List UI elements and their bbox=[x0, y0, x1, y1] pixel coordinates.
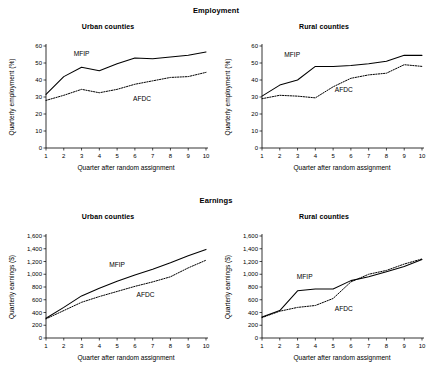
x-tick-label: 10 bbox=[419, 153, 426, 159]
x-tick-label: 4 bbox=[98, 153, 102, 159]
x-tick-label: 1 bbox=[260, 153, 264, 159]
y-tick-label: 1,400 bbox=[27, 246, 43, 252]
y-tick-label: 0 bbox=[39, 335, 43, 341]
x-tick-label: 6 bbox=[133, 153, 137, 159]
y-tick-label: 200 bbox=[248, 322, 259, 328]
series-label-mfip: MFIP bbox=[109, 261, 125, 268]
x-axis-title: Quarter after random assignment bbox=[293, 354, 390, 362]
y-tick-label: 0 bbox=[255, 145, 259, 151]
x-tick-label: 5 bbox=[115, 343, 119, 349]
y-axis-title: Quarterly earnings ($) bbox=[8, 255, 16, 319]
series-label-afdc: AFDC bbox=[335, 86, 353, 93]
x-axis-title: Quarter after random assignment bbox=[77, 354, 174, 362]
y-axis-title: Quarterly employment (%) bbox=[8, 59, 16, 136]
series-label-mfip: MFIP bbox=[284, 51, 300, 58]
y-tick-label: 1,000 bbox=[243, 271, 259, 277]
y-tick-label: 10 bbox=[251, 128, 258, 134]
series-label-mfip: MFIP bbox=[74, 50, 90, 57]
x-tick-label: 7 bbox=[367, 343, 371, 349]
y-tick-label: 1,000 bbox=[27, 271, 43, 277]
x-tick-label: 1 bbox=[44, 343, 48, 349]
chart-urban-employment: 010203040506012345678910Quarter after ra… bbox=[0, 18, 216, 198]
y-tick-label: 50 bbox=[251, 60, 258, 66]
figure-root: Employment Earnings Urban counties 01020… bbox=[0, 0, 432, 377]
x-tick-label: 9 bbox=[187, 343, 191, 349]
y-axis-title: Quarterly earnings ($) bbox=[224, 255, 232, 319]
y-tick-label: 40 bbox=[35, 77, 42, 83]
x-tick-label: 6 bbox=[133, 343, 137, 349]
y-tick-label: 40 bbox=[251, 77, 258, 83]
x-tick-label: 6 bbox=[349, 343, 353, 349]
y-tick-label: 30 bbox=[35, 94, 42, 100]
x-tick-label: 8 bbox=[385, 153, 389, 159]
y-tick-label: 30 bbox=[251, 94, 258, 100]
panel-urban-earnings: Urban counties 02004006008001,0001,2001,… bbox=[0, 208, 216, 377]
x-tick-label: 1 bbox=[260, 343, 264, 349]
section-title-employment: Employment bbox=[0, 6, 432, 15]
x-tick-label: 8 bbox=[169, 343, 173, 349]
y-tick-label: 20 bbox=[35, 111, 42, 117]
x-tick-label: 2 bbox=[62, 343, 66, 349]
chart-rural-employment: 010203040506012345678910Quarter after ra… bbox=[216, 18, 432, 198]
series-line-afdc bbox=[46, 72, 206, 100]
y-tick-label: 50 bbox=[35, 60, 42, 66]
series-line-mfip bbox=[46, 52, 206, 94]
panel-urban-employment: Urban counties 010203040506012345678910Q… bbox=[0, 18, 216, 198]
x-tick-label: 9 bbox=[403, 153, 407, 159]
y-tick-label: 0 bbox=[39, 145, 43, 151]
x-tick-label: 4 bbox=[98, 343, 102, 349]
x-tick-label: 2 bbox=[278, 343, 282, 349]
y-tick-label: 1,600 bbox=[243, 233, 259, 239]
x-tick-label: 2 bbox=[278, 153, 282, 159]
y-tick-label: 1,600 bbox=[27, 233, 43, 239]
x-tick-label: 3 bbox=[296, 153, 300, 159]
x-tick-label: 10 bbox=[203, 343, 210, 349]
x-tick-label: 7 bbox=[151, 153, 155, 159]
x-tick-label: 9 bbox=[403, 343, 407, 349]
y-tick-label: 400 bbox=[32, 310, 43, 316]
x-tick-label: 8 bbox=[385, 343, 389, 349]
x-tick-label: 9 bbox=[187, 153, 191, 159]
y-tick-label: 400 bbox=[248, 310, 259, 316]
y-tick-label: 0 bbox=[255, 335, 259, 341]
x-tick-label: 6 bbox=[349, 153, 353, 159]
x-tick-label: 5 bbox=[115, 153, 119, 159]
x-tick-label: 4 bbox=[314, 343, 318, 349]
chart-rural-earnings: 02004006008001,0001,2001,4001,6001234567… bbox=[216, 208, 432, 377]
y-tick-label: 10 bbox=[35, 128, 42, 134]
series-line-afdc bbox=[46, 260, 206, 319]
x-tick-label: 7 bbox=[367, 153, 371, 159]
x-tick-label: 5 bbox=[331, 343, 335, 349]
x-tick-label: 10 bbox=[203, 153, 210, 159]
y-tick-label: 1,200 bbox=[27, 259, 43, 265]
y-tick-label: 1,200 bbox=[243, 259, 259, 265]
panel-rural-earnings: Rural counties 02004006008001,0001,2001,… bbox=[216, 208, 432, 377]
y-tick-label: 200 bbox=[32, 322, 43, 328]
y-tick-label: 60 bbox=[251, 43, 258, 49]
x-tick-label: 10 bbox=[419, 343, 426, 349]
y-tick-label: 60 bbox=[35, 43, 42, 49]
x-tick-label: 3 bbox=[80, 343, 84, 349]
x-tick-label: 1 bbox=[44, 153, 48, 159]
x-tick-label: 5 bbox=[331, 153, 335, 159]
y-tick-label: 20 bbox=[251, 111, 258, 117]
x-tick-label: 4 bbox=[314, 153, 318, 159]
series-line-afdc bbox=[262, 65, 422, 99]
series-label-mfip: MFIP bbox=[297, 273, 313, 280]
x-tick-label: 2 bbox=[62, 153, 66, 159]
x-axis-title: Quarter after random assignment bbox=[293, 164, 390, 172]
y-tick-label: 600 bbox=[248, 297, 259, 303]
x-tick-label: 8 bbox=[169, 153, 173, 159]
series-label-afdc: AFDC bbox=[335, 305, 353, 312]
series-label-afdc: AFDC bbox=[133, 95, 151, 102]
y-tick-label: 800 bbox=[248, 284, 259, 290]
y-tick-label: 800 bbox=[32, 284, 43, 290]
chart-urban-earnings: 02004006008001,0001,2001,4001,6001234567… bbox=[0, 208, 216, 377]
y-tick-label: 1,400 bbox=[243, 246, 259, 252]
x-tick-label: 7 bbox=[151, 343, 155, 349]
x-tick-label: 3 bbox=[296, 343, 300, 349]
x-tick-label: 3 bbox=[80, 153, 84, 159]
panel-rural-employment: Rural counties 010203040506012345678910Q… bbox=[216, 18, 432, 198]
series-label-afdc: AFDC bbox=[137, 291, 155, 298]
y-axis-title: Quarterly employment (%) bbox=[224, 59, 232, 136]
